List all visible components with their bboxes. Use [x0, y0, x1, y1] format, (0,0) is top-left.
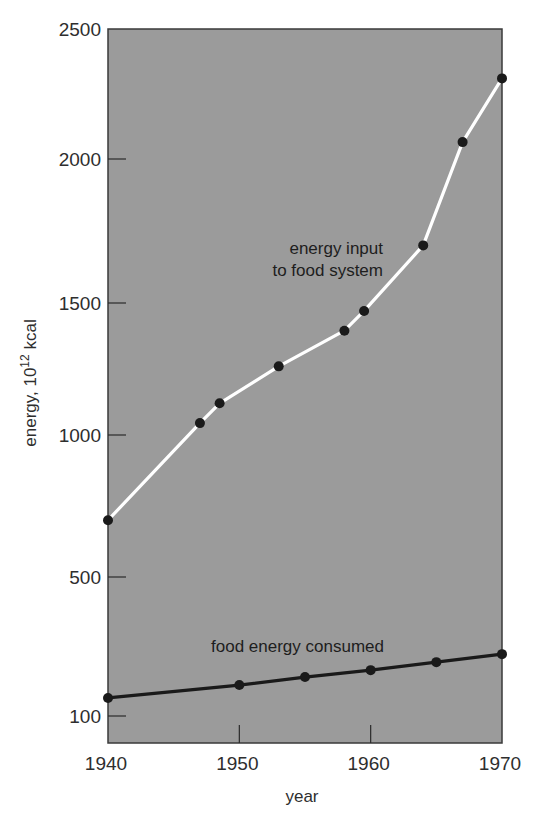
x-axis-title: year: [285, 787, 318, 806]
y-axis-title-base: energy, 10: [21, 368, 40, 447]
x-tick-label: 1960: [348, 753, 390, 774]
y-tick-label: 1500: [59, 293, 101, 314]
label-food-energy-consumed: food energy consumed: [211, 637, 384, 656]
y-tick-label: 2000: [59, 149, 101, 170]
y-axis-title-unit: kcal: [21, 319, 40, 354]
data-point-marker: [497, 73, 507, 83]
data-point-marker: [234, 680, 244, 690]
data-point-marker: [103, 515, 113, 525]
data-point-marker: [274, 361, 284, 371]
line-chart: 1005001000150020002500 1940195019601970 …: [0, 0, 537, 824]
data-point-marker: [418, 240, 428, 250]
label-energy-input: energy input: [289, 239, 383, 258]
data-point-marker: [103, 693, 113, 703]
plot-area: [108, 29, 502, 743]
data-point-marker: [458, 137, 468, 147]
y-tick-label: 2500: [59, 19, 101, 40]
data-point-marker: [359, 306, 369, 316]
y-axis-title-exponent: 12: [18, 354, 32, 368]
data-point-marker: [366, 665, 376, 675]
y-tick-label: 100: [69, 706, 101, 727]
data-point-marker: [195, 418, 205, 428]
data-point-marker: [300, 672, 310, 682]
data-point-marker: [497, 649, 507, 659]
x-tick-label: 1940: [85, 753, 127, 774]
data-point-marker: [431, 657, 441, 667]
y-axis-title: energy, 1012 kcal: [18, 319, 40, 446]
y-tick-label: 1000: [59, 425, 101, 446]
x-tick-label: 1970: [479, 753, 521, 774]
data-point-marker: [339, 326, 349, 336]
y-tick-label: 500: [69, 567, 101, 588]
label-energy-input: to food system: [272, 261, 383, 280]
x-tick-label: 1950: [216, 753, 258, 774]
data-point-marker: [215, 398, 225, 408]
